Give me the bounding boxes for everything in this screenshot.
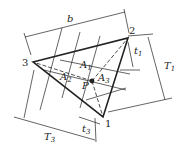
dimension-b-label: b xyxy=(67,13,73,24)
vertex-3-label: 3 xyxy=(22,57,28,68)
hatch-lines xyxy=(24,28,140,118)
dimension-t1-label: t1 xyxy=(134,45,143,58)
vertex-1-label: 1 xyxy=(105,118,111,129)
svg-text:t3: t3 xyxy=(82,123,91,136)
dimension-lines xyxy=(14,9,172,142)
triangle-diagram: b 2 3 1 P A1 A2 A3 t1 T1 T3 t3 xyxy=(0,0,183,149)
svg-text:T3: T3 xyxy=(44,131,56,144)
dimension-t3-label: t3 xyxy=(82,123,91,136)
svg-text:A3: A3 xyxy=(97,72,110,85)
area-a3-label: A3 xyxy=(97,72,110,85)
dimension-T3-label: T3 xyxy=(44,131,56,144)
dimension-T1-label: T1 xyxy=(164,60,175,73)
svg-text:T1: T1 xyxy=(164,60,175,73)
svg-text:t1: t1 xyxy=(134,45,143,58)
centroid-point xyxy=(90,79,95,84)
area-a2-label: A2 xyxy=(59,71,72,84)
svg-text:A1: A1 xyxy=(79,59,92,72)
area-a1-label: A1 xyxy=(79,59,92,72)
point-p-label: P xyxy=(81,80,89,91)
svg-text:A2: A2 xyxy=(59,71,72,84)
vertex-2-label: 2 xyxy=(129,25,135,36)
